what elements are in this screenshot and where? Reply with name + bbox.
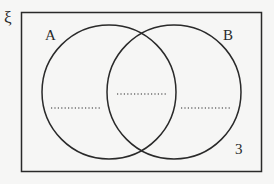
outside-region-value: 3 (235, 142, 243, 157)
universal-set-symbol: ξ (4, 9, 12, 26)
set-a-label: A (45, 28, 56, 43)
set-a-circle (42, 25, 176, 159)
set-b-label: B (223, 28, 233, 43)
set-b-circle (107, 25, 241, 159)
